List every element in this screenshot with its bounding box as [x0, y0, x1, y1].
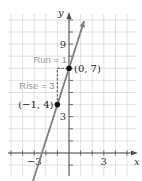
x-axis-arrow-icon [131, 151, 138, 156]
data-point-label: (0, 7) [74, 63, 101, 74]
data-point [66, 66, 72, 72]
x-tick-label: 3 [101, 156, 107, 167]
y-axis-label: y [57, 7, 64, 18]
y-axis-arrow-icon [67, 12, 72, 19]
data-point-label: (−1, 4) [18, 99, 53, 110]
axes [8, 12, 138, 176]
y-tick-label: 9 [60, 39, 66, 50]
rise-annotation: Rise = 3 [19, 80, 54, 91]
data-point [55, 102, 61, 108]
grid [8, 14, 136, 176]
run-annotation: Run = 1 [33, 54, 67, 65]
coordinate-plane: −3339 x y (−1, 4)(0, 7) Run = 1 Rise = 3 [0, 0, 142, 181]
x-axis-label: x [134, 156, 140, 167]
y-tick-label: 3 [60, 111, 66, 122]
